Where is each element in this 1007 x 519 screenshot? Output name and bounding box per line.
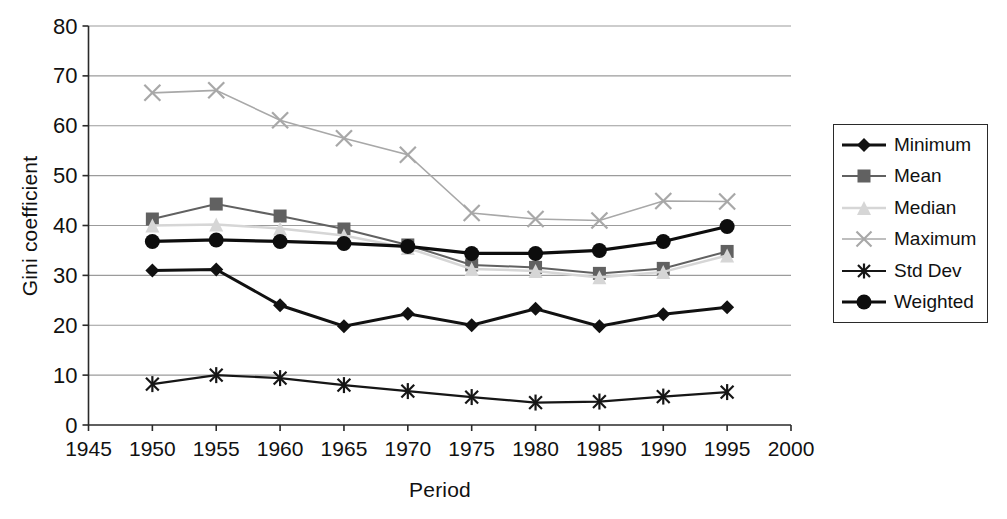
mean-line-sample-icon xyxy=(841,166,887,186)
svg-text:1980: 1980 xyxy=(512,437,559,460)
svg-text:1950: 1950 xyxy=(129,437,176,460)
legend-item-weighted: Weighted xyxy=(841,291,985,313)
svg-text:1975: 1975 xyxy=(448,437,495,460)
median-line-sample-icon xyxy=(841,198,887,218)
y-axis-title: Gini coefficient xyxy=(18,146,42,306)
svg-text:60: 60 xyxy=(53,113,77,138)
legend-item-maximum: Maximum xyxy=(841,228,985,250)
svg-text:2000: 2000 xyxy=(768,437,815,460)
svg-text:1960: 1960 xyxy=(257,437,304,460)
legend-label-maximum: Maximum xyxy=(894,228,976,250)
minimum-line-sample-icon xyxy=(841,135,887,155)
svg-text:1985: 1985 xyxy=(576,437,623,460)
legend-label-weighted: Weighted xyxy=(894,291,974,313)
legend-item-mean: Mean xyxy=(841,165,985,187)
svg-text:1955: 1955 xyxy=(193,437,240,460)
gini-coefficient-chart: 0102030405060708019451950195519601965197… xyxy=(0,0,1007,519)
legend-item-minimum: Minimum xyxy=(841,134,985,156)
svg-text:20: 20 xyxy=(53,313,77,338)
maximum-line-sample-icon xyxy=(841,229,887,249)
svg-text:80: 80 xyxy=(53,14,77,39)
svg-text:10: 10 xyxy=(53,363,77,388)
svg-text:1995: 1995 xyxy=(704,437,751,460)
svg-text:1990: 1990 xyxy=(640,437,687,460)
legend-label-median: Median xyxy=(894,197,956,219)
svg-text:1970: 1970 xyxy=(384,437,431,460)
weighted-line-sample-icon xyxy=(841,292,887,312)
legend-item-median: Median xyxy=(841,197,985,219)
legend-label-std-dev: Std Dev xyxy=(894,260,962,282)
svg-text:0: 0 xyxy=(65,413,77,438)
svg-text:1945: 1945 xyxy=(65,437,112,460)
svg-text:40: 40 xyxy=(53,213,77,238)
legend-label-mean: Mean xyxy=(894,165,942,187)
svg-text:30: 30 xyxy=(53,263,77,288)
chart-legend: Minimum Mean Median Maximum Std Dev Weig… xyxy=(833,124,988,323)
svg-text:70: 70 xyxy=(53,63,77,88)
svg-text:1965: 1965 xyxy=(321,437,368,460)
legend-item-std-dev: Std Dev xyxy=(841,260,985,282)
x-axis-title: Period xyxy=(89,478,791,502)
svg-text:50: 50 xyxy=(53,163,77,188)
std-dev-line-sample-icon xyxy=(841,261,887,281)
legend-label-minimum: Minimum xyxy=(894,134,971,156)
